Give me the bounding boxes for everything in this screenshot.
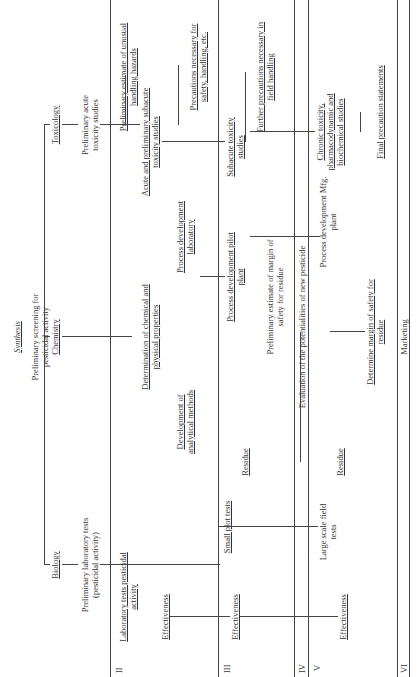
residue-iii: Residue	[240, 448, 250, 475]
connector	[162, 141, 225, 142]
prelim-acute-toxicity: Preliminary acute toxicity studies	[80, 85, 100, 165]
connector	[100, 124, 140, 125]
stage-ii-divider	[110, 0, 111, 677]
stage-label-iv: IV	[297, 664, 307, 673]
field-handling-precautions: Further precautions necessary in field h…	[255, 17, 275, 137]
connector	[62, 336, 132, 337]
prelim-handling-hazards: Preliminary estimate of unusual handling…	[118, 22, 138, 132]
stage-label-v: V	[312, 665, 322, 671]
acute-subacute-toxicity: Acute and preliminary subacute toxicity …	[140, 82, 160, 202]
discipline-toxicology: Toxicology	[50, 106, 60, 145]
connector	[330, 331, 365, 332]
stage-label-iii: III	[222, 665, 232, 674]
stage-iii-divider	[218, 0, 219, 677]
process-dev-pilot: Process development pilot plant	[225, 227, 245, 327]
effectiveness-ii: Effectiveness	[160, 594, 170, 640]
subacute-toxicity: Subacute toxicity studies	[225, 107, 245, 187]
prelim-lab-tests: Preliminary laboratory tests (pesticidal…	[80, 510, 100, 620]
margin-estimate: Preliminary estimate of margin of safety…	[265, 237, 285, 357]
effectiveness-v: Effectiveness	[338, 594, 348, 640]
synthesis-label: Synthesis	[12, 321, 22, 353]
connector	[178, 65, 179, 125]
lab-tests-activity: Laboratory tests pesticidal activity	[118, 552, 138, 642]
connector	[100, 564, 220, 565]
residue-v: Residue	[335, 448, 345, 475]
effectiveness-iii: Effectiveness	[230, 594, 240, 640]
connector	[170, 616, 230, 617]
marketing: Marketing	[399, 319, 409, 354]
process-dev-lab: Process development laboratory	[175, 187, 195, 287]
discipline-branch-line	[44, 125, 45, 565]
connector	[62, 124, 78, 125]
discipline-biology: Biology	[50, 551, 60, 578]
connector	[218, 526, 318, 527]
connector	[125, 75, 126, 125]
stage-iv-divider-bottom	[308, 0, 309, 677]
connector	[62, 564, 78, 565]
connector	[360, 112, 361, 132]
connector	[250, 236, 320, 237]
chem-phys-properties: Determination of chemical and physical p…	[140, 272, 160, 402]
stage-vi-divider-bottom	[409, 0, 410, 677]
connector	[245, 72, 246, 142]
connector	[300, 332, 301, 462]
pesticide-development-flowchart: Synthesis Preliminary screening for pest…	[0, 0, 417, 677]
final-precaution: Final precaution statements	[375, 62, 385, 162]
connector	[240, 616, 338, 617]
connector	[250, 131, 315, 132]
stage-vi-divider-top	[397, 0, 398, 677]
small-plot-tests: Small plot tests	[222, 501, 232, 553]
evaluation-potentialities: Evaluation of the potentialities of new …	[297, 246, 307, 408]
chronic-toxicity: Chronic toxicity, pharmacodynamic and bi…	[315, 72, 345, 192]
stage-iv-divider-top	[294, 0, 295, 677]
stage-label-vi: VI	[399, 664, 409, 673]
large-scale-field-tests: Large scale field tests	[318, 502, 338, 562]
analytical-methods: Development of analytical methods	[175, 377, 195, 467]
root-node: Preliminary screening for pesticidal act…	[30, 282, 50, 392]
discipline-chemistry: Chemistry	[50, 319, 60, 354]
connector	[200, 276, 225, 277]
stage-label-ii: II	[114, 667, 124, 673]
precautions-safety: Precautions necessary for safety, handli…	[188, 12, 208, 122]
determine-margin: Determine margin of safety for residue	[365, 272, 385, 392]
